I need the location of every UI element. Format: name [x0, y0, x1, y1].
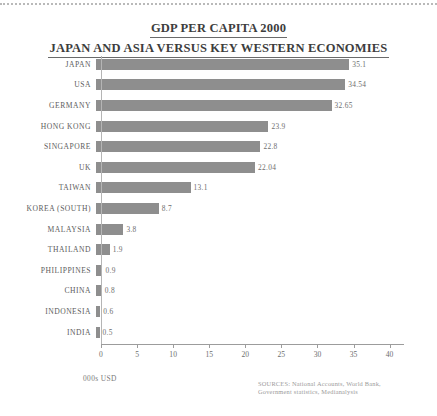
category-label: JAPAN [0, 60, 96, 69]
bar-value-label: 0.8 [105, 286, 115, 295]
bar-value-label: 22.8 [263, 142, 277, 151]
x-axis-tick [390, 344, 391, 348]
bar-value-label: 0.6 [103, 307, 113, 316]
category-label: INDONESIA [0, 307, 96, 316]
x-axis-tick-label: 5 [135, 350, 139, 359]
category-label: INDIA [0, 328, 96, 337]
y-axis-line [101, 56, 102, 344]
bar [96, 100, 332, 111]
category-label: CHINA [0, 286, 96, 295]
x-axis-line: 0510152025303540 [101, 344, 404, 345]
bar [96, 141, 260, 152]
bar-value-label: 8.7 [162, 204, 172, 213]
bar-row: PHILIPPINES0.9 [0, 260, 437, 281]
x-axis-tick [101, 344, 102, 348]
bar-chart-plot-area: JAPAN35.1USA34.54GERMANY32.65HONG KONG23… [0, 54, 437, 344]
bar-row: UK22.04 [0, 157, 437, 178]
bar-zone: 35.1 [96, 54, 437, 75]
x-axis-tick-label: 30 [314, 350, 322, 359]
bar-row: KOREA (SOUTH)8.7 [0, 198, 437, 219]
category-label: UK [0, 163, 96, 172]
bar-row: USA34.54 [0, 75, 437, 96]
category-label: KOREA (SOUTH) [0, 204, 96, 213]
bar-zone: 0.8 [96, 281, 437, 302]
x-axis-tick-label: 10 [169, 350, 177, 359]
bar-value-label: 0.5 [103, 328, 113, 337]
x-axis-tick [173, 344, 174, 348]
x-axis-tick-label: 0 [99, 350, 103, 359]
bar [96, 79, 345, 90]
category-label: MALAYSIA [0, 225, 96, 234]
bar-zone: 22.8 [96, 136, 437, 157]
chart-title-block: GDP PER CAPITA 2000 JAPAN AND ASIA VERSU… [0, 18, 437, 58]
bar-zone: 0.9 [96, 260, 437, 281]
source-note-line-2: Government statistics, Medianalysis [258, 388, 381, 396]
bar [96, 121, 268, 132]
bar-row: MALAYSIA3.8 [0, 219, 437, 240]
x-axis-tick-label: 40 [386, 350, 394, 359]
bar-value-label: 13.1 [194, 183, 208, 192]
x-axis-tick [137, 344, 138, 348]
bar [96, 59, 349, 70]
bar-zone: 0.6 [96, 301, 437, 322]
category-label: GERMANY [0, 101, 96, 110]
bar-row: CHINA0.8 [0, 281, 437, 302]
category-label: HONG KONG [0, 122, 96, 131]
bar-value-label: 0.9 [105, 266, 115, 275]
x-axis-tick [245, 344, 246, 348]
bar-row: SINGAPORE22.8 [0, 136, 437, 157]
bar-row: INDONESIA0.6 [0, 301, 437, 322]
bar-value-label: 1.9 [113, 245, 123, 254]
category-label: PHILIPPINES [0, 266, 96, 275]
bar [96, 306, 100, 317]
bar-value-label: 3.8 [126, 225, 136, 234]
source-note: SOURCES: National Accounts, World Bank, … [258, 380, 381, 396]
bar-value-label: 35.1 [352, 60, 366, 69]
x-axis-tick [209, 344, 210, 348]
x-axis-tick-label: 35 [350, 350, 358, 359]
bar-zone: 0.5 [96, 322, 437, 343]
bar-row: JAPAN35.1 [0, 54, 437, 75]
bar-row: HONG KONG23.9 [0, 116, 437, 137]
bar-value-label: 32.65 [335, 101, 353, 110]
bar [96, 327, 100, 338]
bar-zone: 13.1 [96, 178, 437, 199]
bar-row: INDIA0.5 [0, 322, 437, 343]
bar-value-label: 23.9 [271, 122, 285, 131]
bar [96, 244, 110, 255]
x-axis-tick-label: 20 [241, 350, 249, 359]
bar-zone: 23.9 [96, 116, 437, 137]
x-axis-tick [281, 344, 282, 348]
bar-row: THAILAND1.9 [0, 239, 437, 260]
category-label: SINGAPORE [0, 142, 96, 151]
x-axis-tick [354, 344, 355, 348]
bar-zone: 32.65 [96, 95, 437, 116]
bar-row: TAIWAN13.1 [0, 178, 437, 199]
category-label: TAIWAN [0, 183, 96, 192]
bar-zone: 3.8 [96, 219, 437, 240]
bar [96, 203, 159, 214]
source-note-line-1: SOURCES: National Accounts, World Bank, [258, 380, 381, 388]
category-label: USA [0, 80, 96, 89]
bar-zone: 1.9 [96, 239, 437, 260]
x-axis-caption: 000s USD [83, 374, 117, 383]
bar-value-label: 22.04 [258, 163, 276, 172]
x-axis-tick [317, 344, 318, 348]
bar-zone: 22.04 [96, 157, 437, 178]
category-label: THAILAND [0, 245, 96, 254]
bar [96, 182, 191, 193]
bar-row: GERMANY32.65 [0, 95, 437, 116]
x-axis-tick-label: 25 [278, 350, 286, 359]
x-axis-tick-label: 15 [205, 350, 213, 359]
chart-title-line-1: GDP PER CAPITA 2000 [150, 21, 287, 38]
bar-value-label: 34.54 [348, 80, 366, 89]
bar [96, 162, 255, 173]
bar-zone: 34.54 [96, 75, 437, 96]
top-divider [0, 3, 437, 5]
bar-zone: 8.7 [96, 198, 437, 219]
